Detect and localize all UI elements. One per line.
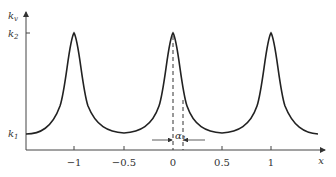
tick-label-m1: −1 bbox=[67, 157, 82, 168]
tick-label-0: 0 bbox=[170, 157, 176, 168]
chart: kv k2 k1 −1 −0.5 0 0.5 1 x α1 bbox=[0, 0, 336, 177]
k2-label: k2 bbox=[8, 28, 19, 41]
curve bbox=[26, 33, 318, 134]
tick-label-m05: −0.5 bbox=[112, 157, 136, 168]
x-axis-label: x bbox=[318, 155, 324, 166]
alpha-label: α1 bbox=[175, 130, 186, 143]
y-axis-label: kv bbox=[8, 10, 18, 23]
tick-label-1: 1 bbox=[268, 157, 274, 168]
k1-label: k1 bbox=[8, 128, 19, 141]
tick-label-05: 0.5 bbox=[214, 157, 230, 168]
